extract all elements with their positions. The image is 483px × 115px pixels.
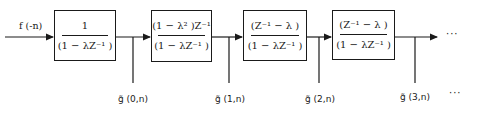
block-0-denominator: (1 − λZ⁻¹ ) bbox=[58, 40, 113, 52]
fraction-bar bbox=[62, 35, 109, 36]
block-0-numerator: 1 bbox=[82, 20, 88, 32]
block-1-numerator: (1 − λ² )Z⁻¹ bbox=[152, 20, 211, 32]
fraction-bar bbox=[251, 35, 299, 36]
output-label-1: g̃ (1,n) bbox=[215, 94, 245, 104]
continuation-dots-top: ··· bbox=[446, 28, 459, 39]
fraction-bar bbox=[158, 35, 204, 36]
block-1-denominator: (1 − λZ⁻¹ ) bbox=[154, 40, 209, 52]
block-2: (Z⁻¹ − λ ) (1 − λZ⁻¹ ) bbox=[243, 10, 307, 61]
fraction-bar bbox=[340, 34, 388, 35]
continuation-dots-bottom: ··· bbox=[449, 87, 462, 98]
output-label-3: g̃ (3,n) bbox=[400, 92, 430, 102]
output-label-2: g̃ (2,n) bbox=[305, 94, 335, 104]
block-1: (1 − λ² )Z⁻¹ (1 − λZ⁻¹ ) bbox=[151, 10, 212, 62]
block-2-denominator: (1 − λZ⁻¹ ) bbox=[248, 40, 303, 52]
output-label-0: g̃ (0,n) bbox=[118, 94, 148, 104]
block-3-numerator: (Z⁻¹ − λ ) bbox=[339, 19, 387, 31]
block-0: 1 (1 − λZ⁻¹ ) bbox=[54, 10, 116, 61]
block-3: (Z⁻¹ − λ ) (1 − λZ⁻¹ ) bbox=[332, 10, 395, 60]
block-2-numerator: (Z⁻¹ − λ ) bbox=[251, 20, 299, 32]
input-label: f (-n) bbox=[19, 20, 42, 31]
block-3-denominator: (1 − λZ⁻¹ ) bbox=[336, 39, 391, 51]
